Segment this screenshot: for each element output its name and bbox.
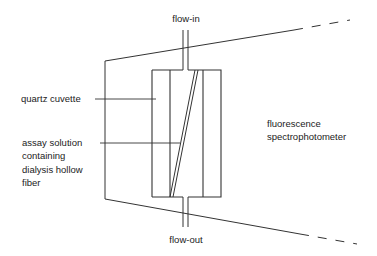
quartz-cuvette-label: quartz cuvette [21, 93, 81, 104]
assay-solution-label-2: containing [22, 150, 65, 161]
dialysis-hollow-fiber [170, 70, 198, 197]
inflow-tube [183, 30, 188, 70]
quartz-cuvette [152, 70, 221, 197]
cuvette-diagram: flow-in flow-out quartz cuvette assay so… [0, 0, 377, 256]
assay-solution-label-3: dialysis hollow [22, 164, 83, 175]
outflow-tube [183, 197, 188, 227]
flow-out-label: flow-out [169, 234, 203, 245]
assay-solution-label-4: fiber [22, 177, 40, 188]
instrument-label-1: fluorescence [267, 118, 321, 129]
flow-in-label: flow-in [172, 13, 199, 24]
assay-solution-label-1: assay solution [22, 137, 82, 148]
instrument-label-2: spectrophotometer [267, 131, 346, 142]
